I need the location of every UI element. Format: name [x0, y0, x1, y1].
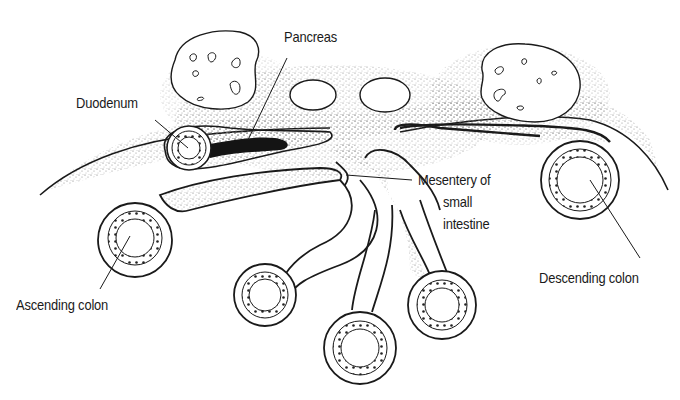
ascending-colon	[98, 203, 172, 277]
aorta	[360, 78, 410, 112]
small-intestine-loop-2	[324, 312, 396, 384]
anatomy-illustration	[0, 0, 680, 400]
small-intestine-loop-1	[234, 264, 296, 326]
label-pancreas: Pancreas	[284, 28, 337, 46]
label-ascending-colon: Ascending colon	[16, 296, 108, 314]
label-descending-colon: Descending colon	[539, 269, 639, 287]
label-mesentery-line1: Mesentery of	[418, 171, 491, 189]
inferior-vena-cava	[290, 80, 336, 110]
small-intestine-loop-3	[408, 271, 476, 339]
label-mesentery-line2: small	[443, 193, 472, 211]
label-mesentery-line3: intestine	[443, 215, 490, 233]
left-kidney	[171, 31, 259, 109]
diagram-canvas: Pancreas Duodenum Mesentery of small int…	[0, 0, 680, 400]
label-duodenum: Duodenum	[76, 94, 138, 112]
duodenum	[167, 126, 211, 170]
